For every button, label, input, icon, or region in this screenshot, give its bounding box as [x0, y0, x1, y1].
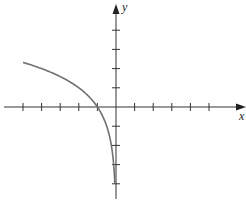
chart-plot: x y — [0, 0, 246, 201]
y-axis-arrow-icon — [113, 4, 120, 14]
function-curve — [23, 62, 115, 183]
x-axis-label: x — [238, 109, 245, 123]
y-axis-label: y — [121, 0, 128, 14]
axes — [4, 4, 246, 199]
